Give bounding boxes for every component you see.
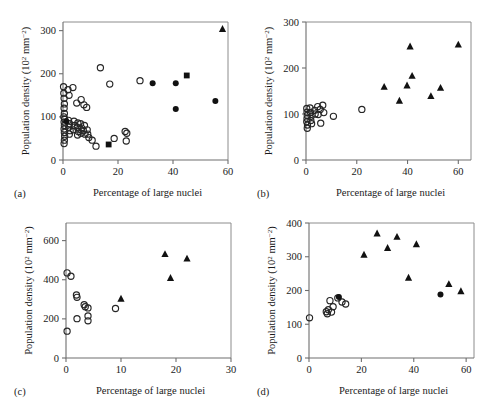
y-tick-label: 100	[283, 109, 299, 120]
data-point-filled-triangle	[183, 255, 190, 262]
scatter-panel-d: 02040600100200300400Percentage of large …	[243, 205, 486, 410]
x-axis-title: Percentage of large nuclei	[96, 385, 205, 396]
data-point-filled-circle	[173, 80, 179, 86]
y-tick-label: 400	[43, 274, 59, 285]
x-tick-label: 0	[306, 364, 311, 375]
panel-tag-c: (c)	[14, 386, 26, 397]
data-point-open-circle	[327, 298, 333, 304]
data-point-filled-triangle	[457, 287, 464, 294]
series-filled-circle	[63, 80, 218, 124]
data-point-open-circle	[97, 65, 103, 71]
x-tick-label: 40	[168, 166, 179, 177]
scatter-panel-c: 01020300200400600Percentage of large nuc…	[0, 205, 243, 410]
x-axis-title: Percentage of large nuclei	[93, 187, 202, 198]
figure-container: 02040600100200300Percentage of large nuc…	[0, 0, 486, 410]
x-tick-label: 60	[223, 166, 234, 177]
panel-tag-d: (d)	[257, 386, 269, 397]
y-tick-label: 300	[283, 17, 299, 28]
x-axis-title: Percentage of large nuclei	[339, 385, 448, 396]
scatter-panel-a: 02040600100200300Percentage of large nuc…	[0, 0, 243, 205]
data-point-filled-triangle	[403, 82, 410, 89]
plot-area-d: 02040600100200300400Percentage of large …	[243, 205, 486, 410]
data-point-filled-triangle	[396, 97, 403, 104]
y-axis-title: Population density (102 mm−2)	[23, 226, 35, 355]
data-point-filled-triangle	[219, 25, 226, 32]
data-point-open-circle	[137, 78, 143, 84]
y-tick-label: 0	[51, 155, 56, 166]
series-filled-circle	[336, 292, 444, 300]
x-tick-label: 60	[461, 364, 472, 375]
data-point-open-circle	[68, 273, 74, 279]
series-filled-triangle	[219, 25, 226, 32]
data-point-open-circle	[74, 316, 80, 322]
x-tick-label: 10	[116, 364, 127, 375]
x-tick-label: 20	[171, 364, 182, 375]
data-point-filled-circle	[173, 106, 179, 112]
data-point-filled-square	[106, 142, 112, 148]
data-point-filled-triangle	[437, 84, 444, 91]
x-tick-label: 40	[402, 166, 413, 177]
y-tick-label: 200	[43, 313, 59, 324]
data-point-filled-triangle	[161, 250, 168, 257]
series-open-circle	[304, 102, 365, 131]
data-point-filled-triangle	[427, 92, 434, 99]
data-point-filled-triangle	[393, 233, 400, 240]
data-point-filled-triangle	[360, 251, 367, 258]
data-point-filled-triangle	[445, 280, 452, 287]
data-point-filled-triangle	[406, 42, 413, 49]
data-point-filled-triangle	[381, 83, 388, 90]
data-point-open-circle	[330, 113, 336, 119]
data-point-open-circle	[111, 135, 117, 141]
data-point-filled-triangle	[413, 240, 420, 247]
x-tick-label: 20	[352, 166, 363, 177]
data-point-open-circle	[122, 128, 128, 134]
x-tick-label: 0	[63, 364, 68, 375]
series-filled-triangle	[381, 41, 462, 104]
data-point-open-circle	[93, 143, 99, 149]
y-tick-label: 400	[286, 218, 302, 229]
x-tick-label: 20	[113, 166, 124, 177]
data-point-filled-square	[184, 73, 190, 79]
data-point-open-circle	[107, 81, 113, 87]
y-tick-label: 300	[286, 251, 302, 262]
series-open-circle	[64, 270, 119, 335]
data-point-filled-triangle	[409, 72, 416, 79]
x-tick-label: 60	[453, 166, 464, 177]
x-tick-label: 0	[303, 166, 308, 177]
y-tick-label: 200	[40, 68, 56, 79]
panel-tag-a: (a)	[14, 188, 26, 199]
y-tick-label: 0	[54, 353, 59, 364]
series-filled-triangle	[360, 230, 464, 295]
y-tick-label: 200	[286, 285, 302, 296]
data-point-open-circle	[112, 305, 118, 311]
data-point-filled-triangle	[405, 274, 412, 281]
x-axis-title: Percentage of large nuclei	[336, 187, 445, 198]
y-tick-label: 600	[43, 235, 59, 246]
data-point-filled-circle	[336, 294, 342, 300]
series-open-circle	[306, 295, 348, 321]
scatter-panel-b: 02040600100200300Percentage of large nuc…	[243, 0, 486, 205]
data-point-filled-triangle	[117, 295, 124, 302]
plot-area-a: 02040600100200300Percentage of large nuc…	[0, 0, 243, 205]
data-point-filled-triangle	[384, 244, 391, 251]
y-tick-label: 0	[297, 353, 302, 364]
y-tick-label: 300	[40, 25, 56, 36]
data-point-open-circle	[123, 138, 129, 144]
x-tick-label: 30	[226, 364, 237, 375]
series-filled-triangle	[117, 250, 190, 302]
y-tick-label: 200	[283, 63, 299, 74]
y-tick-label: 100	[286, 319, 302, 330]
data-point-open-circle	[64, 328, 70, 334]
data-point-open-circle	[124, 130, 130, 136]
y-tick-label: 0	[294, 155, 299, 166]
y-axis-title: Population density (102 mm−2)	[263, 26, 275, 155]
data-point-filled-triangle	[455, 41, 462, 48]
data-point-filled-circle	[212, 98, 218, 104]
data-point-filled-circle	[437, 292, 443, 298]
plot-area-b: 02040600100200300Percentage of large nuc…	[243, 0, 486, 205]
y-axis-title: Population density (102 mm−2)	[20, 26, 32, 155]
plot-area-c: 01020300200400600Percentage of large nuc…	[0, 205, 243, 410]
y-tick-label: 100	[40, 111, 56, 122]
data-point-open-circle	[64, 270, 70, 276]
data-point-filled-triangle	[373, 230, 380, 237]
